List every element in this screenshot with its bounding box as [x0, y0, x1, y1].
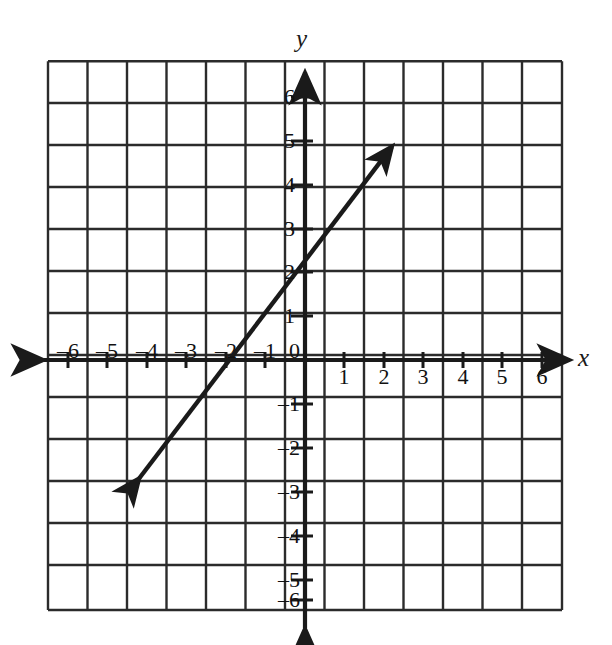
coordinate-plane-figure: y x –6 –5 –4 –3 –2 –1 0 1 2 3 4 5 6 1 2 … [0, 0, 612, 645]
y-tick-label-neg6: –6 [278, 589, 300, 611]
y-tick-label-6: 6 [284, 86, 295, 108]
x-tick-label-neg6: –6 [57, 340, 79, 362]
y-tick-label-1: 1 [284, 305, 295, 327]
x-tick-label-neg2: –2 [215, 340, 237, 362]
graph-canvas [0, 0, 612, 645]
x-tick-label-4: 4 [458, 366, 469, 388]
x-tick-label-6: 6 [537, 366, 548, 388]
x-tick-label-neg3: –3 [175, 340, 197, 362]
y-tick-label-neg1: –1 [278, 393, 300, 415]
x-tick-label-neg5: –5 [96, 340, 118, 362]
x-tick-label-2: 2 [379, 366, 390, 388]
x-axis-label: x [578, 345, 589, 370]
y-tick-label-5: 5 [284, 130, 295, 152]
x-tick-label-1: 1 [339, 366, 350, 388]
origin-label: 0 [289, 340, 300, 362]
y-tick-label-3: 3 [284, 218, 295, 240]
y-tick-label-neg3: –3 [278, 481, 300, 503]
x-tick-label-3: 3 [418, 366, 429, 388]
x-tick-label-5: 5 [497, 366, 508, 388]
y-tick-label-2: 2 [284, 261, 295, 283]
x-tick-label-neg1: –1 [254, 340, 276, 362]
y-axis-label: y [296, 26, 307, 51]
x-tick-label-neg4: –4 [136, 340, 158, 362]
y-tick-label-neg4: –4 [278, 525, 300, 547]
y-tick-label-neg2: –2 [278, 437, 300, 459]
y-tick-label-4: 4 [284, 174, 295, 196]
